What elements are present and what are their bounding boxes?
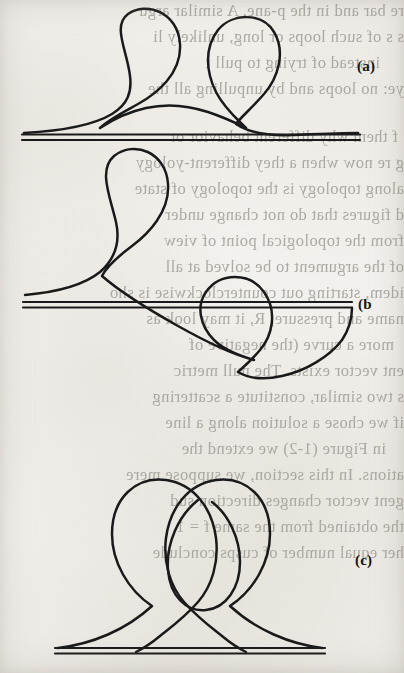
panel-c-curve-right [165, 480, 322, 652]
panel-c-group [55, 480, 325, 654]
panel-label-b: (b [358, 296, 372, 313]
panel-b-group [23, 149, 352, 378]
panel-label-c: (c) [355, 552, 372, 569]
scanned-figure-page: re bar and in the p-ane. A similar argus… [0, 0, 404, 673]
panel-label-a: (a) [357, 58, 375, 75]
panel-a-curve [24, 9, 358, 135]
panel-a-group [22, 9, 360, 140]
panel-b-curve [25, 149, 352, 378]
figure-drawing-layer [0, 0, 404, 673]
curve-diagrams-svg [0, 0, 404, 673]
